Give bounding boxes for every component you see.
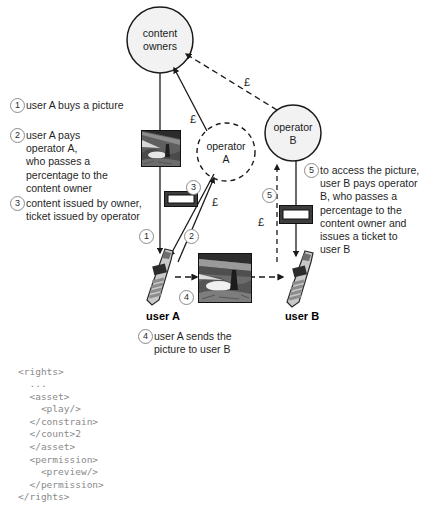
ticket-icon-right bbox=[279, 205, 313, 228]
caption-2-text: user A pays operator A, who passes a per… bbox=[26, 129, 134, 195]
marker-step-2: 2 bbox=[184, 229, 199, 244]
figure-canvas: content owners operator A operator B £ £… bbox=[0, 0, 435, 507]
content-owners-label: content owners bbox=[130, 27, 190, 52]
caption-5-number: 5 bbox=[304, 163, 319, 178]
caption-4-text: user A sends the picture to user B bbox=[154, 330, 274, 356]
mobile-phone-icon bbox=[283, 250, 317, 312]
user-a-label: user A bbox=[128, 310, 198, 322]
caption-3-number: 3 bbox=[10, 196, 25, 211]
marker-step-4: 4 bbox=[179, 290, 194, 305]
operator-b-label: operator B bbox=[263, 121, 323, 146]
money-label-user-b: £ bbox=[258, 216, 264, 228]
money-label-operator-a: £ bbox=[190, 113, 196, 125]
money-label-user-a: £ bbox=[212, 196, 218, 208]
user-b-phone bbox=[283, 250, 317, 316]
landscape-photo-icon bbox=[199, 254, 251, 302]
money-arrow-operator-b-to-owners bbox=[186, 54, 277, 110]
mobile-phone-icon bbox=[143, 248, 177, 310]
marker-step-5: 5 bbox=[262, 188, 277, 203]
caption-1-number: 1 bbox=[10, 98, 25, 113]
picture-thumbnail-bottom bbox=[198, 253, 252, 303]
caption-3-text: content issued by owner, ticket issued b… bbox=[26, 197, 158, 223]
user-a-phone bbox=[143, 248, 177, 314]
caption-5-text: to access the picture, user B pays opera… bbox=[320, 164, 432, 256]
landscape-photo-icon bbox=[142, 131, 180, 166]
caption-4-number: 4 bbox=[138, 329, 153, 344]
user-b-label: user B bbox=[267, 310, 337, 322]
caption-1-text: user A buys a picture bbox=[26, 99, 146, 112]
operator-a-label: operator A bbox=[196, 140, 256, 165]
caption-2-number: 2 bbox=[10, 128, 25, 143]
rights-xml-code: <rights> ... <asset> <play/> </constrain… bbox=[18, 366, 104, 505]
picture-thumbnail-top bbox=[141, 130, 181, 167]
marker-step-1: 1 bbox=[139, 229, 154, 244]
marker-step-3: 3 bbox=[186, 180, 201, 195]
money-label-operator-b: £ bbox=[244, 76, 250, 88]
